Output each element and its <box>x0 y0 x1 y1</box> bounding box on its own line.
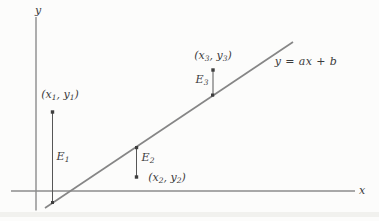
point-2-coord-open: (x <box>148 171 159 184</box>
point-1-coordinate-label: (x1, y1) <box>41 89 79 100</box>
error-2-subscript: 2 <box>150 156 155 165</box>
error-1-subscript: 1 <box>65 155 70 164</box>
point-3-coordinate-label: (x3, y3) <box>194 50 232 61</box>
point-1-coord-open: (x <box>41 88 52 101</box>
line-equation-label: y = ax + b <box>275 56 337 67</box>
point-2-coord-mid: , y <box>163 171 176 184</box>
error-1-label: E1 <box>57 151 70 162</box>
error-2-symbol: E <box>142 151 150 164</box>
point-1-coord-close: ) <box>74 88 78 101</box>
data-point-3 <box>211 68 214 71</box>
line-foot-point-3 <box>211 94 214 97</box>
scan-band <box>0 212 379 217</box>
point-2-coordinate-label: (x2, y2) <box>148 172 186 183</box>
point-1-coord-mid: , y <box>56 88 69 101</box>
x-axis-label: x <box>359 185 365 196</box>
point-2-coord-close: ) <box>181 171 185 184</box>
error-3-subscript: 3 <box>204 78 209 87</box>
data-point-2 <box>135 175 138 178</box>
point-3-coord-close: ) <box>227 49 231 62</box>
error-3-symbol: E <box>196 73 204 86</box>
point-3-coord-open: (x <box>194 49 205 62</box>
least-squares-diagram: y x y = ax + b (x1, y1) E1 (x2, y2) E2 (… <box>0 0 379 221</box>
error-1-symbol: E <box>57 150 65 163</box>
line-foot-point-2 <box>135 146 138 149</box>
data-point-1 <box>51 110 54 113</box>
y-axis-label: y <box>35 5 41 16</box>
error-2-label: E2 <box>142 152 155 163</box>
figure-canvas <box>0 0 379 221</box>
line-foot-point-1 <box>51 201 54 204</box>
error-3-label: E3 <box>196 74 209 85</box>
point-3-coord-mid: , y <box>209 49 222 62</box>
